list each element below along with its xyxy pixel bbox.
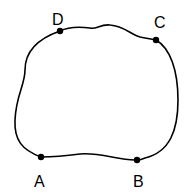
point-d-marker xyxy=(57,28,63,34)
point-c-marker xyxy=(153,37,159,43)
point-b-label: B xyxy=(133,173,144,190)
point-d-label: D xyxy=(52,11,64,28)
point-a-label: A xyxy=(34,173,45,190)
point-b-marker xyxy=(134,157,140,163)
closed-curve xyxy=(15,25,178,160)
diagram-canvas: A B C D xyxy=(0,0,188,193)
point-c-label: C xyxy=(154,14,166,31)
point-a-marker xyxy=(38,154,44,160)
